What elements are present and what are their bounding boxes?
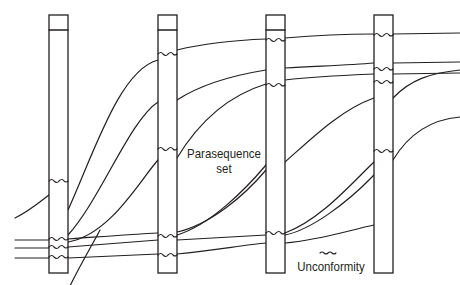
- parasequence-set-label: Parasequence set: [182, 146, 266, 176]
- unconformity-legend-label: Unconformity: [291, 259, 370, 274]
- parasequence-diagram: [0, 0, 460, 285]
- parasequence-set-label-line2: set: [182, 161, 266, 176]
- parasequence-set-label-line1: Parasequence: [182, 146, 266, 161]
- well-1: [49, 15, 68, 273]
- surface-left: [15, 195, 49, 218]
- surface-5: [285, 117, 460, 233]
- unconformity-legend-icon: [320, 252, 336, 254]
- well-4: [374, 15, 393, 273]
- wells: [49, 15, 393, 273]
- surface-1: [68, 33, 460, 210]
